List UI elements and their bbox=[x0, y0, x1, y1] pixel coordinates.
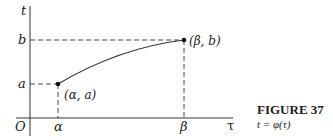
tick-label-beta: β bbox=[179, 119, 188, 134]
figure-caption-subtitle: t = φ(τ) bbox=[257, 118, 291, 131]
function-graph-figure: t τ O α β a b (α, a) (β, b) FIGURE 37 t … bbox=[0, 0, 333, 140]
figure-caption-title: FIGURE 37 bbox=[257, 102, 324, 117]
point-label-alpha-a: (α, a) bbox=[64, 88, 97, 102]
tick-label-a: a bbox=[18, 76, 26, 91]
point-beta-b bbox=[182, 38, 187, 43]
point-label-beta-b: (β, b) bbox=[189, 34, 221, 48]
horizontal-axis-label: τ bbox=[227, 118, 234, 133]
point-alpha-a bbox=[56, 82, 61, 87]
tick-label-b: b bbox=[18, 32, 26, 47]
curve-phi bbox=[58, 40, 184, 84]
tick-label-alpha: α bbox=[54, 119, 63, 134]
origin-label: O bbox=[15, 119, 26, 134]
vertical-axis-label: t bbox=[21, 3, 27, 18]
